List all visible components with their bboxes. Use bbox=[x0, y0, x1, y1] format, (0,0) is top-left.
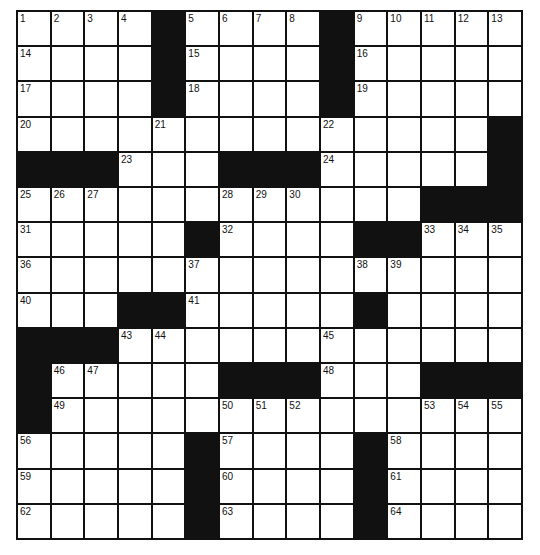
grid-cell[interactable] bbox=[254, 294, 286, 327]
grid-cell[interactable] bbox=[321, 188, 353, 221]
grid-cell[interactable]: 59 bbox=[18, 470, 50, 503]
grid-cell[interactable] bbox=[422, 47, 454, 80]
grid-cell[interactable] bbox=[254, 470, 286, 503]
grid-cell[interactable]: 38 bbox=[355, 258, 387, 291]
grid-cell[interactable]: 4 bbox=[119, 12, 151, 45]
grid-cell[interactable]: 58 bbox=[388, 434, 420, 467]
grid-cell[interactable] bbox=[456, 47, 488, 80]
grid-cell[interactable]: 5 bbox=[186, 12, 218, 45]
grid-cell[interactable] bbox=[153, 153, 185, 186]
grid-cell[interactable]: 24 bbox=[321, 153, 353, 186]
grid-cell[interactable]: 21 bbox=[153, 118, 185, 151]
grid-cell[interactable] bbox=[52, 470, 84, 503]
grid-cell[interactable] bbox=[489, 505, 521, 538]
grid-cell[interactable] bbox=[52, 47, 84, 80]
grid-cell[interactable]: 27 bbox=[85, 188, 117, 221]
grid-cell[interactable] bbox=[388, 364, 420, 397]
grid-cell[interactable] bbox=[119, 118, 151, 151]
grid-cell[interactable] bbox=[85, 82, 117, 115]
grid-cell[interactable] bbox=[489, 47, 521, 80]
grid-cell[interactable] bbox=[388, 294, 420, 327]
grid-cell[interactable] bbox=[52, 118, 84, 151]
grid-cell[interactable] bbox=[355, 399, 387, 432]
grid-cell[interactable]: 20 bbox=[18, 118, 50, 151]
grid-cell[interactable] bbox=[85, 399, 117, 432]
grid-cell[interactable] bbox=[85, 47, 117, 80]
grid-cell[interactable] bbox=[254, 505, 286, 538]
grid-cell[interactable] bbox=[422, 294, 454, 327]
grid-cell[interactable]: 64 bbox=[388, 505, 420, 538]
grid-cell[interactable]: 10 bbox=[388, 12, 420, 45]
grid-cell[interactable]: 18 bbox=[186, 82, 218, 115]
grid-cell[interactable] bbox=[355, 188, 387, 221]
grid-cell[interactable] bbox=[119, 434, 151, 467]
grid-cell[interactable] bbox=[321, 505, 353, 538]
grid-cell[interactable]: 43 bbox=[119, 329, 151, 362]
grid-cell[interactable]: 52 bbox=[287, 399, 319, 432]
grid-cell[interactable]: 44 bbox=[153, 329, 185, 362]
grid-cell[interactable] bbox=[321, 434, 353, 467]
grid-cell[interactable]: 46 bbox=[52, 364, 84, 397]
grid-cell[interactable] bbox=[456, 118, 488, 151]
grid-cell[interactable] bbox=[52, 505, 84, 538]
grid-cell[interactable] bbox=[422, 434, 454, 467]
grid-cell[interactable]: 29 bbox=[254, 188, 286, 221]
grid-cell[interactable] bbox=[254, 434, 286, 467]
grid-cell[interactable] bbox=[52, 434, 84, 467]
grid-cell[interactable] bbox=[287, 47, 319, 80]
grid-cell[interactable]: 36 bbox=[18, 258, 50, 291]
grid-cell[interactable] bbox=[287, 82, 319, 115]
grid-cell[interactable] bbox=[52, 258, 84, 291]
grid-cell[interactable] bbox=[220, 118, 252, 151]
grid-cell[interactable]: 53 bbox=[422, 399, 454, 432]
grid-cell[interactable] bbox=[254, 82, 286, 115]
grid-cell[interactable] bbox=[388, 188, 420, 221]
grid-cell[interactable] bbox=[254, 47, 286, 80]
grid-cell[interactable] bbox=[52, 294, 84, 327]
grid-cell[interactable] bbox=[119, 364, 151, 397]
grid-cell[interactable] bbox=[287, 118, 319, 151]
grid-cell[interactable] bbox=[321, 223, 353, 256]
grid-cell[interactable] bbox=[220, 258, 252, 291]
grid-cell[interactable]: 22 bbox=[321, 118, 353, 151]
grid-cell[interactable] bbox=[321, 294, 353, 327]
grid-cell[interactable] bbox=[287, 434, 319, 467]
grid-cell[interactable] bbox=[186, 399, 218, 432]
grid-cell[interactable]: 12 bbox=[456, 12, 488, 45]
grid-cell[interactable] bbox=[388, 47, 420, 80]
grid-cell[interactable] bbox=[85, 118, 117, 151]
grid-cell[interactable] bbox=[85, 223, 117, 256]
grid-cell[interactable] bbox=[153, 364, 185, 397]
grid-cell[interactable]: 1 bbox=[18, 12, 50, 45]
grid-cell[interactable] bbox=[422, 470, 454, 503]
grid-cell[interactable]: 31 bbox=[18, 223, 50, 256]
grid-cell[interactable] bbox=[456, 294, 488, 327]
grid-cell[interactable]: 14 bbox=[18, 47, 50, 80]
grid-cell[interactable]: 19 bbox=[355, 82, 387, 115]
grid-cell[interactable] bbox=[186, 329, 218, 362]
grid-cell[interactable] bbox=[52, 223, 84, 256]
grid-cell[interactable]: 17 bbox=[18, 82, 50, 115]
grid-cell[interactable]: 56 bbox=[18, 434, 50, 467]
grid-cell[interactable] bbox=[153, 505, 185, 538]
grid-cell[interactable] bbox=[388, 118, 420, 151]
grid-cell[interactable]: 37 bbox=[186, 258, 218, 291]
grid-cell[interactable] bbox=[388, 82, 420, 115]
grid-cell[interactable] bbox=[153, 399, 185, 432]
grid-cell[interactable] bbox=[456, 470, 488, 503]
grid-cell[interactable] bbox=[422, 118, 454, 151]
grid-cell[interactable] bbox=[355, 364, 387, 397]
grid-cell[interactable]: 23 bbox=[119, 153, 151, 186]
grid-cell[interactable]: 47 bbox=[85, 364, 117, 397]
grid-cell[interactable] bbox=[456, 505, 488, 538]
grid-cell[interactable] bbox=[153, 434, 185, 467]
grid-cell[interactable] bbox=[456, 329, 488, 362]
grid-cell[interactable] bbox=[85, 434, 117, 467]
grid-cell[interactable] bbox=[119, 258, 151, 291]
grid-cell[interactable] bbox=[456, 258, 488, 291]
grid-cell[interactable] bbox=[119, 82, 151, 115]
grid-cell[interactable] bbox=[119, 505, 151, 538]
grid-cell[interactable] bbox=[287, 329, 319, 362]
grid-cell[interactable] bbox=[254, 223, 286, 256]
grid-cell[interactable] bbox=[489, 434, 521, 467]
